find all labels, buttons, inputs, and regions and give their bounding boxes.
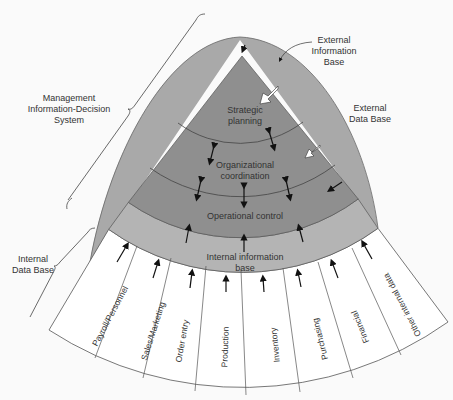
label-line: coordination	[200, 171, 290, 182]
layer-operational-control: Operational control	[195, 211, 295, 222]
label-line: Operational control	[195, 211, 295, 222]
label-line: Information	[306, 46, 362, 57]
label-line: Data Base	[8, 265, 58, 276]
layer-organizational-coordination: Organizational coordination	[200, 160, 290, 182]
label-line: Base	[306, 57, 362, 68]
label-line: External	[340, 103, 400, 114]
label-line: Internal	[8, 254, 58, 265]
label-line: Data Base	[340, 114, 400, 125]
external-information-base-label: External Information Base	[306, 35, 362, 68]
layer-internal-information-base: Internal information base	[190, 252, 300, 274]
label-line: External	[306, 35, 362, 46]
external-data-base-label: External Data Base	[340, 103, 400, 125]
label-line: planning	[210, 116, 280, 127]
diagram-canvas: Management Information-Decision System I…	[0, 0, 453, 400]
label-line: Management	[20, 93, 118, 104]
label-line: Information-Decision	[20, 104, 118, 115]
label-line: base	[190, 263, 300, 274]
label-line: Organizational	[200, 160, 290, 171]
layer-strategic-planning: Strategic planning	[210, 105, 280, 127]
internal-data-base-label: Internal Data Base	[8, 254, 58, 276]
label-line: Strategic	[210, 105, 280, 116]
label-line: Internal information	[190, 252, 300, 263]
label-line: System	[20, 115, 118, 126]
source-production: Production	[219, 317, 231, 377]
midss-label: Management Information-Decision System	[20, 93, 118, 126]
